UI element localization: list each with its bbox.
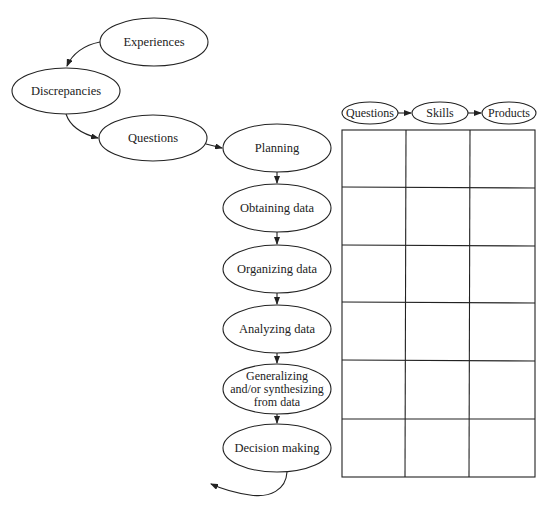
matrix-products-label: Products: [488, 106, 530, 120]
arrow-questions-planning: [206, 144, 222, 148]
arrow-discrepancies-questions: [66, 114, 98, 138]
experiences-label: Experiences: [123, 35, 184, 49]
inquiry-diagram: Experiences Discrepancies Questions Plan…: [0, 0, 550, 505]
planning-label: Planning: [255, 141, 299, 155]
organizing-data-label: Organizing data: [237, 262, 317, 276]
analyzing-data-label: Analyzing data: [239, 322, 315, 336]
arrow-decision-loopback: [211, 472, 287, 496]
decision-making-label: Decision making: [234, 441, 319, 455]
obtaining-data-label: Obtaining data: [240, 201, 314, 215]
questions-label: Questions: [128, 131, 178, 145]
arrow-experiences-discrepancies: [67, 42, 100, 66]
skills-matrix-grid: [342, 130, 535, 477]
matrix-questions-label: Questions: [346, 106, 394, 120]
diagram-graphics: [0, 0, 550, 505]
generalizing-label: Generalizing and/or synthesizing from da…: [230, 370, 324, 409]
matrix-skills-label: Skills: [426, 106, 453, 120]
discrepancies-label: Discrepancies: [31, 84, 101, 98]
